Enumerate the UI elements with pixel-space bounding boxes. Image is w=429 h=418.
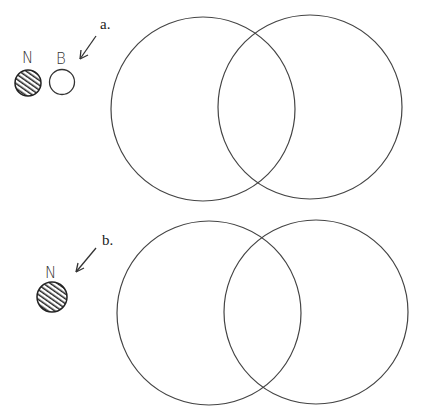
venn-a-right-circle	[218, 15, 402, 199]
particle-n-hatched	[37, 282, 67, 312]
venn-b-right-circle	[224, 220, 408, 404]
particle-b-open	[50, 70, 75, 95]
particle-n-letter: N	[45, 264, 56, 282]
particle-b-letter: B	[56, 50, 66, 68]
panel-b-label: b.	[102, 232, 113, 249]
panel-a-venn	[111, 15, 402, 201]
arrow-icon-a	[80, 36, 96, 59]
particle-n-hatched	[15, 70, 41, 96]
venn-b-left-circle	[117, 221, 301, 405]
venn-a-left-circle	[111, 17, 295, 201]
particle-n-letter: N	[22, 49, 33, 67]
panel-b-venn	[117, 220, 408, 405]
arrow-icon-b	[76, 248, 96, 272]
panel-a-label: a.	[100, 16, 110, 33]
